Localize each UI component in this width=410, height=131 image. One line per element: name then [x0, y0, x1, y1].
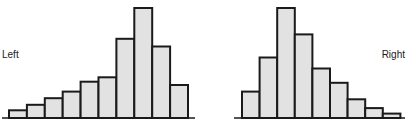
left-bar-9 [152, 47, 170, 119]
right-bar-8 [365, 108, 383, 118]
left-bar-10 [170, 85, 188, 118]
left-histogram: Left [2, 8, 195, 118]
left-bar-7 [116, 39, 134, 118]
left-bar-1 [9, 110, 27, 118]
right-bar-7 [348, 99, 366, 118]
right-bar-6 [330, 83, 348, 118]
right-bar-2 [260, 58, 278, 119]
right-label: Right [382, 49, 406, 60]
right-histogram: Right [234, 8, 405, 118]
left-bar-8 [134, 8, 152, 118]
skewness-histograms: Left Right [0, 0, 410, 131]
right-bar-4 [295, 34, 313, 118]
left-bar-5 [81, 82, 99, 118]
left-bar-4 [63, 92, 81, 118]
left-label: Left [2, 49, 19, 60]
right-bar-3 [277, 8, 295, 118]
left-bar-3 [45, 98, 63, 118]
right-bar-1 [242, 92, 260, 118]
right-bar-5 [312, 69, 330, 119]
left-bar-6 [99, 77, 117, 118]
right-bar-9 [383, 114, 401, 118]
left-bar-2 [27, 105, 45, 118]
